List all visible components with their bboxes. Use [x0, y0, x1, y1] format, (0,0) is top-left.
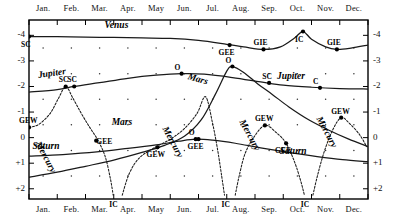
y-tick-right-1: -3 — [373, 55, 394, 65]
month-label-top-1: Feb. — [60, 3, 82, 13]
event-marker-o — [180, 72, 184, 76]
event-label-mercury-sc-1: SC — [59, 75, 69, 84]
event-marker-sc — [72, 84, 76, 88]
event-label-mercury-gee-6: GEE — [188, 142, 204, 151]
event-marker-c — [318, 86, 322, 90]
event-label-mercury-gew-7: GEW — [255, 114, 274, 123]
event-marker-gew — [155, 145, 159, 149]
month-label-top-11: Dec. — [343, 3, 365, 13]
curve-label-venus-0: Venus — [105, 20, 129, 30]
month-label-bottom-1: Feb. — [60, 204, 82, 214]
month-label-bottom-0: Jan. — [32, 204, 54, 214]
curves-layer — [29, 32, 368, 196]
event-label-mercury-gew-4: GEW — [147, 150, 166, 159]
event-marker-sc — [27, 35, 31, 39]
event-label-jupiter-o-1: O — [175, 63, 181, 72]
event-marker-sc — [267, 81, 271, 85]
event-label-venus-sc-0: SC — [21, 40, 31, 49]
month-label-top-3: Apr. — [117, 3, 139, 13]
event-label-jupiter-sc-0: SC — [67, 75, 77, 84]
y-tick-left-5: +1 — [4, 157, 25, 167]
month-label-top-8: Sep. — [258, 3, 280, 13]
y-tick-left-1: -3 — [4, 55, 25, 65]
event-label-mars-o-0: O — [225, 56, 231, 65]
month-label-top-4: May — [145, 3, 167, 13]
event-marker-gew — [27, 125, 31, 129]
event-label-venus-gie-2: GIE — [253, 38, 267, 47]
y-tick-right-0: -4 — [373, 29, 394, 39]
event-marker-o — [230, 64, 234, 68]
month-label-bottom-2: Mar. — [89, 204, 111, 214]
event-label-saturn-o-0: O — [189, 128, 195, 137]
event-label-venus-gie-4: GIE — [327, 38, 341, 47]
event-marker-gie — [261, 47, 265, 51]
y-tick-right-2: -2 — [373, 80, 394, 90]
event-label-jupiter-c-3: C — [313, 77, 319, 86]
event-label-mercury-ic-2: IC — [109, 200, 118, 209]
y-tick-left-3: -1 — [4, 106, 25, 116]
event-label-mercury-gew-10: GEW — [331, 107, 350, 116]
event-marker-gew — [263, 123, 267, 127]
event-label-mercury-ic-5: IC — [222, 200, 231, 209]
month-label-top-2: Mar. — [89, 3, 111, 13]
event-marker-gie — [335, 47, 339, 51]
month-label-bottom-11: Dec. — [343, 204, 365, 214]
y-tick-right-5: +1 — [373, 157, 394, 167]
event-label-mercury-ic-8: IC — [301, 200, 310, 209]
y-tick-left-2: -2 — [4, 80, 25, 90]
month-label-bottom-3: Apr. — [117, 204, 139, 214]
event-marker-gew — [339, 116, 343, 120]
event-label-mercury-gee-3: GEE — [96, 137, 112, 146]
month-label-top-5: Jun. — [173, 3, 195, 13]
y-tick-left-6: +2 — [4, 183, 25, 193]
month-label-bottom-5: Jun. — [173, 204, 195, 214]
month-label-top-9: Oct. — [286, 3, 308, 13]
month-label-top-0: Jan. — [32, 3, 54, 13]
event-label-mercury-gew-0: GEW — [19, 116, 38, 125]
event-label-jupiter-sc-2: SC — [262, 72, 272, 81]
y-tick-right-4: 0 — [373, 132, 394, 142]
event-marker-gee — [196, 137, 200, 141]
dot-grid-layer — [42, 47, 354, 176]
month-label-bottom-8: Sep. — [258, 204, 280, 214]
event-marker-gee — [228, 43, 232, 47]
month-label-top-6: Jul. — [202, 3, 224, 13]
event-marker-ic — [301, 29, 305, 33]
curve-label-jupiter-2: Jupiter — [277, 71, 305, 81]
month-label-top-7: Aug. — [230, 3, 252, 13]
y-tick-right-6: +2 — [373, 183, 394, 193]
y-tick-left-0: -4 — [4, 29, 25, 39]
y-tick-left-4: 0 — [4, 132, 25, 142]
month-label-top-10: Nov. — [315, 3, 337, 13]
month-label-bottom-10: Nov. — [315, 204, 337, 214]
y-tick-right-3: -1 — [373, 106, 394, 116]
month-label-bottom-4: May — [145, 204, 167, 214]
month-label-bottom-6: Jul. — [202, 204, 224, 214]
event-label-venus-ic-3: IC — [295, 35, 304, 44]
event-markers-layer — [27, 29, 343, 149]
month-label-bottom-7: Aug. — [230, 204, 252, 214]
event-marker-sc — [64, 84, 68, 88]
curve-venus — [29, 32, 368, 50]
event-label-mercury-gee-9: GEE — [275, 146, 291, 155]
planet-magnitude-chart: Jan.Jan.Feb.Feb.Mar.Mar.Apr.Apr.MayMayJu… — [0, 0, 397, 221]
curve-label-mars-3: Mars — [112, 117, 133, 127]
